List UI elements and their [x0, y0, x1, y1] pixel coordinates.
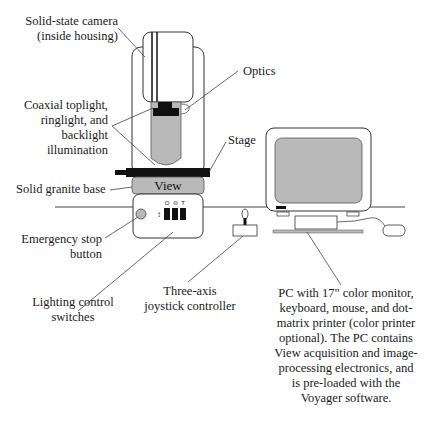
svg-text:O: O — [165, 200, 170, 206]
svg-text:⊜: ⊜ — [173, 200, 178, 206]
svg-text:↕: ↕ — [157, 210, 161, 219]
stage-label: Stage — [228, 133, 256, 148]
optics-label: Optics — [243, 64, 276, 79]
joystick-icon — [233, 209, 257, 236]
base-view-label: View — [154, 178, 182, 193]
camera-label: Solid-state camera (inside housing) — [14, 14, 118, 44]
illumination-label: Coaxial toplight, ringlight, and backlig… — [4, 98, 108, 158]
monitor-icon — [266, 128, 371, 233]
control-cabinet: O ⊜ T ↕ — [133, 194, 203, 238]
granite-base-label: Solid granite base — [16, 182, 106, 197]
lighting-control-label: Lighting control switches — [18, 295, 128, 325]
mouse-icon — [337, 218, 405, 236]
pc-description-label: PC with 17" color monitor, keyboard, mou… — [264, 286, 428, 406]
stage-icon — [115, 168, 210, 177]
camera-icon — [143, 32, 193, 102]
svg-text:T: T — [181, 200, 185, 206]
emergency-stop-label: Emergency stop button — [4, 232, 102, 262]
joystick-label: Three-axis joystick controller — [128, 284, 252, 314]
